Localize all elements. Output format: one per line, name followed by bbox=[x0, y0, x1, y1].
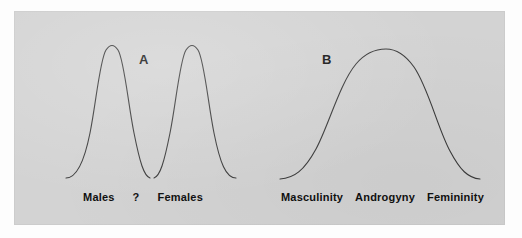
panel-letter-a: A bbox=[139, 53, 149, 66]
panel-b: B Masculinity Androgyny Femininity bbox=[260, 11, 505, 225]
curve-females bbox=[154, 46, 236, 179]
panel-letter-b: B bbox=[322, 53, 332, 66]
panel-a-axis-labels: Males ? Females bbox=[14, 191, 266, 203]
axis-label-females: Females bbox=[158, 191, 203, 203]
axis-label-androgyny: Androgyny bbox=[355, 191, 415, 203]
axis-label-males: Males bbox=[83, 191, 115, 203]
curve-androgyny bbox=[280, 49, 480, 179]
figure-root: A Males ? Females B Masculinity Androgyn… bbox=[0, 0, 522, 238]
curve-males bbox=[66, 46, 150, 179]
panel-b-axis-labels: Masculinity Androgyny Femininity bbox=[260, 191, 505, 203]
axis-label-masculinity: Masculinity bbox=[281, 191, 343, 203]
axis-label-femininity: Femininity bbox=[427, 191, 484, 203]
axis-label-question-mark: ? bbox=[133, 191, 140, 203]
panel-a: A Males ? Females bbox=[14, 11, 260, 225]
diagram-plate: A Males ? Females B Masculinity Androgyn… bbox=[14, 11, 505, 225]
